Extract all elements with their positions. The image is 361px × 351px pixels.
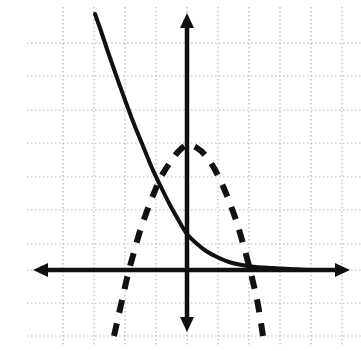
figure-background: [0, 0, 361, 351]
graph-figure: [0, 0, 361, 351]
